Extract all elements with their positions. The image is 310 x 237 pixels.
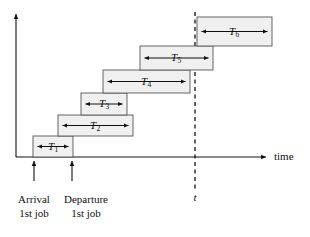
- tick-label-line2: 1st job: [18, 206, 50, 220]
- job-box-T4: [103, 70, 190, 93]
- job-box-T5: [140, 46, 213, 70]
- t-marker-label: t: [193, 192, 196, 203]
- job-box-T6: [197, 17, 272, 46]
- job-timeline-diagram: T1 T2 T3 T4 T5 T6 time t Arrival 1st job…: [0, 0, 310, 237]
- tick-label-departure-1st-job: Departure 1st job: [64, 192, 108, 220]
- job-box-T3: [81, 93, 127, 115]
- tick-label-line1: Arrival: [18, 192, 50, 206]
- tick-label-line1: Departure: [64, 192, 108, 206]
- time-axis-label: time: [274, 151, 294, 162]
- job-box-T1: [33, 136, 73, 157]
- tick-label-arrival-1st-job: Arrival 1st job: [18, 192, 50, 220]
- tick-label-line2: 1st job: [64, 206, 108, 220]
- job-box-T2: [58, 115, 133, 136]
